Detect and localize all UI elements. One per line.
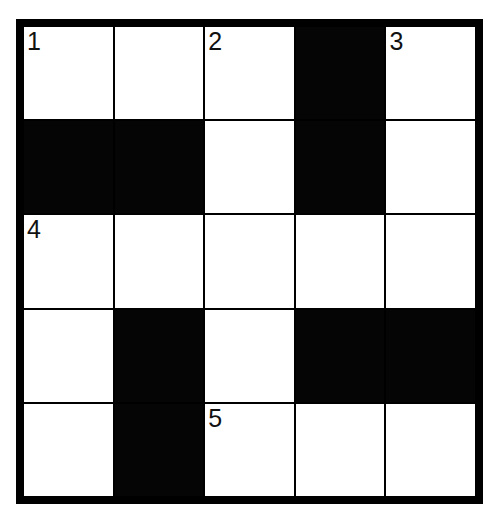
crossword-cell[interactable]	[205, 121, 294, 213]
crossword-cell[interactable]	[386, 215, 475, 307]
crossword-cell[interactable]	[205, 310, 294, 402]
clue-number: 2	[208, 29, 222, 54]
crossword-cell[interactable]	[386, 121, 475, 213]
crossword-cell[interactable]	[24, 404, 113, 496]
crossword-cell[interactable]: 5	[205, 404, 294, 496]
black-square	[115, 121, 204, 213]
crossword-cell[interactable]	[24, 310, 113, 402]
crossword-cell[interactable]: 1	[24, 27, 113, 119]
crossword-grid: 12345	[16, 19, 483, 504]
black-square	[296, 310, 385, 402]
crossword-cell[interactable]	[205, 215, 294, 307]
black-square	[296, 121, 385, 213]
crossword-cell[interactable]	[386, 404, 475, 496]
crossword-cell[interactable]	[296, 404, 385, 496]
clue-number: 4	[27, 217, 41, 242]
crossword-cell[interactable]: 2	[205, 27, 294, 119]
crossword-cell[interactable]: 4	[24, 215, 113, 307]
black-square	[386, 310, 475, 402]
black-square	[296, 27, 385, 119]
crossword-cell[interactable]: 3	[386, 27, 475, 119]
clue-number: 5	[208, 406, 222, 431]
black-square	[115, 310, 204, 402]
clue-number: 3	[389, 29, 403, 54]
black-square	[115, 404, 204, 496]
clue-number: 1	[27, 29, 41, 54]
crossword-cell[interactable]	[115, 27, 204, 119]
crossword-cell[interactable]	[115, 215, 204, 307]
crossword-cell[interactable]	[296, 215, 385, 307]
black-square	[24, 121, 113, 213]
